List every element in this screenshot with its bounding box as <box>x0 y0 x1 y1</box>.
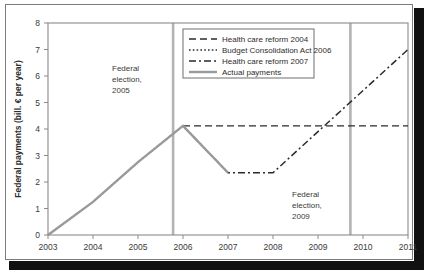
chart-annotations: Federalelection,2005Federalelection,2009 <box>112 64 322 221</box>
line-chart: 200320042005200620072008200920102011 012… <box>0 0 428 274</box>
x-tick-label: 2004 <box>84 242 103 252</box>
y-tick-label: 7 <box>35 45 40 55</box>
y-tick-label: 8 <box>35 18 40 28</box>
x-tick-label: 2006 <box>174 242 193 252</box>
y-tick-label: 0 <box>35 230 40 240</box>
x-tick-labels: 200320042005200620072008200920102011 <box>39 242 418 252</box>
y-tick-label: 2 <box>35 177 40 187</box>
figure-container: 200320042005200620072008200920102011 012… <box>0 0 428 274</box>
annotation-text: Federal <box>292 190 319 199</box>
x-tick-label: 2011 <box>399 242 418 252</box>
chart-legend: Health care reform 2004Budget Consolidat… <box>183 29 332 78</box>
y-tick-label: 5 <box>35 98 40 108</box>
y-tick-labels: 012345678 <box>35 18 40 240</box>
annotation-text: 2005 <box>112 86 130 95</box>
legend-label: Actual payments <box>222 68 281 77</box>
x-axis-ticks <box>48 235 408 239</box>
x-tick-label: 2008 <box>264 242 283 252</box>
x-tick-label: 2005 <box>129 242 148 252</box>
x-tick-label: 2010 <box>354 242 373 252</box>
series-line <box>48 126 228 235</box>
x-tick-label: 2003 <box>39 242 58 252</box>
y-tick-label: 4 <box>35 124 40 134</box>
legend-label: Budget Consolidation Act 2006 <box>222 46 332 55</box>
y-tick-label: 6 <box>35 71 40 81</box>
annotation-text: 2009 <box>292 212 310 221</box>
y-axis-ticks <box>44 23 48 235</box>
x-tick-label: 2009 <box>309 242 328 252</box>
y-tick-label: 3 <box>35 151 40 161</box>
x-tick-label: 2007 <box>219 242 238 252</box>
annotation-text: election, <box>292 201 322 210</box>
annotation-text: election, <box>112 75 142 84</box>
annotation-text: Federal <box>112 64 139 73</box>
y-axis-title: Federal payments (bill. € per year) <box>13 60 23 198</box>
legend-label: Health care reform 2004 <box>222 35 309 44</box>
legend-label: Health care reform 2007 <box>222 57 309 66</box>
y-tick-label: 1 <box>35 204 40 214</box>
